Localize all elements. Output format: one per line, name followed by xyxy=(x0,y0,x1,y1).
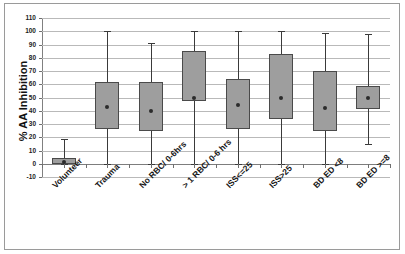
whisker-cap-upper xyxy=(235,31,242,32)
y-tick-mark-70 xyxy=(39,71,42,72)
x-tick-boundary xyxy=(390,164,391,168)
y-tick-mark-90 xyxy=(39,45,42,46)
y-tick-mark-20 xyxy=(39,137,42,138)
y-tick-mark-100 xyxy=(39,31,42,32)
x-tick-boundary xyxy=(42,164,43,168)
y-tick-mark-40 xyxy=(39,111,42,112)
y-tick-label-90: 90 xyxy=(10,41,36,48)
median-marker xyxy=(149,109,153,113)
gridline--10 xyxy=(42,177,390,178)
gridline-110 xyxy=(42,18,390,19)
box-no-rbc-0-6hrs xyxy=(139,82,163,131)
gridline-100 xyxy=(42,31,390,32)
whisker-cap-upper xyxy=(322,33,329,34)
y-tick-label-0: 0 xyxy=(10,161,36,168)
gridline-20 xyxy=(42,137,390,138)
x-tick-boundary xyxy=(216,164,217,168)
y-tick-mark-30 xyxy=(39,124,42,125)
whisker-cap-upper xyxy=(148,43,155,44)
y-tick-label-60: 60 xyxy=(10,81,36,88)
whisker-cap-upper xyxy=(191,31,198,32)
median-marker xyxy=(192,96,196,100)
y-tick-mark-50 xyxy=(39,98,42,99)
y-tick-mark-60 xyxy=(39,84,42,85)
whisker-cap-lower xyxy=(365,144,372,145)
box--1-rbc-0-6-hrs xyxy=(182,51,206,101)
y-tick-label-80: 80 xyxy=(10,55,36,62)
y-tick-label-10: 10 xyxy=(10,147,36,154)
whisker-cap-upper xyxy=(104,31,111,32)
y-tick-mark-10 xyxy=(39,151,42,152)
box-iss-25 xyxy=(269,54,293,119)
y-tick-label-110: 110 xyxy=(10,15,36,22)
y-tick-label-70: 70 xyxy=(10,68,36,75)
y-tick-label-50: 50 xyxy=(10,94,36,101)
x-tick-boundary xyxy=(303,164,304,168)
y-tick-label-20: 20 xyxy=(10,134,36,141)
whisker-cap-upper xyxy=(365,34,372,35)
x-tick-boundary xyxy=(260,164,261,168)
y-tick-mark--10 xyxy=(39,177,42,178)
gridline-90 xyxy=(42,45,390,46)
y-tick-mark-110 xyxy=(39,18,42,19)
x-tick-boundary xyxy=(129,164,130,168)
x-tick-boundary xyxy=(173,164,174,168)
x-tick-boundary xyxy=(86,164,87,168)
gridline-70 xyxy=(42,71,390,72)
gridline-80 xyxy=(42,58,390,59)
box-bd-ed-8 xyxy=(313,71,337,131)
y-tick-mark-80 xyxy=(39,58,42,59)
y-tick-label-30: 30 xyxy=(10,121,36,128)
y-tick-label-40: 40 xyxy=(10,108,36,115)
x-tick-boundary xyxy=(347,164,348,168)
chart-figure: % AA Inhibition 110100908070605040302010… xyxy=(0,0,405,254)
median-marker xyxy=(366,96,370,100)
median-marker xyxy=(323,106,327,110)
y-tick-label-100: 100 xyxy=(10,28,36,35)
whisker-cap-upper xyxy=(61,139,68,140)
median-marker xyxy=(279,96,283,100)
y-tick-label--10: -10 xyxy=(10,174,36,181)
whisker-cap-upper xyxy=(278,31,285,32)
